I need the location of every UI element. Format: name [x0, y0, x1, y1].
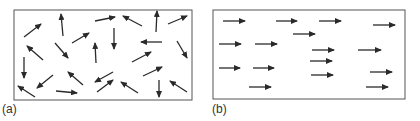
panel-frame [14, 10, 192, 100]
panel-a-random-arrows [14, 10, 192, 100]
figure-canvas [0, 0, 420, 121]
panel-frame [213, 10, 405, 99]
arrow-icon [27, 46, 43, 60]
arrow-icon [177, 41, 187, 58]
arrow-icon [97, 80, 113, 92]
arrow-icon [56, 91, 77, 93]
arrow-icon [95, 72, 113, 82]
arrow-icon [37, 75, 53, 88]
panel-a-label: (a) [2, 102, 17, 116]
panel-b-label: (b) [212, 102, 227, 116]
arrow-icon [18, 86, 35, 97]
arrow-icon [72, 33, 89, 43]
arrow-icon [24, 24, 41, 37]
arrow-icon [123, 16, 142, 26]
panel-b-aligned-arrows [213, 10, 405, 99]
arrow-icon [156, 11, 157, 32]
arrow-icon [68, 72, 83, 85]
arrow-icon [95, 43, 96, 63]
arrow-icon [55, 43, 68, 58]
arrow-icon [170, 81, 187, 92]
arrow-icon [121, 82, 138, 93]
arrow-icon [143, 67, 162, 76]
arrow-icon [61, 14, 63, 36]
arrow-icon [132, 52, 151, 62]
arrow-icon [95, 17, 115, 21]
arrow-icon [168, 16, 187, 24]
